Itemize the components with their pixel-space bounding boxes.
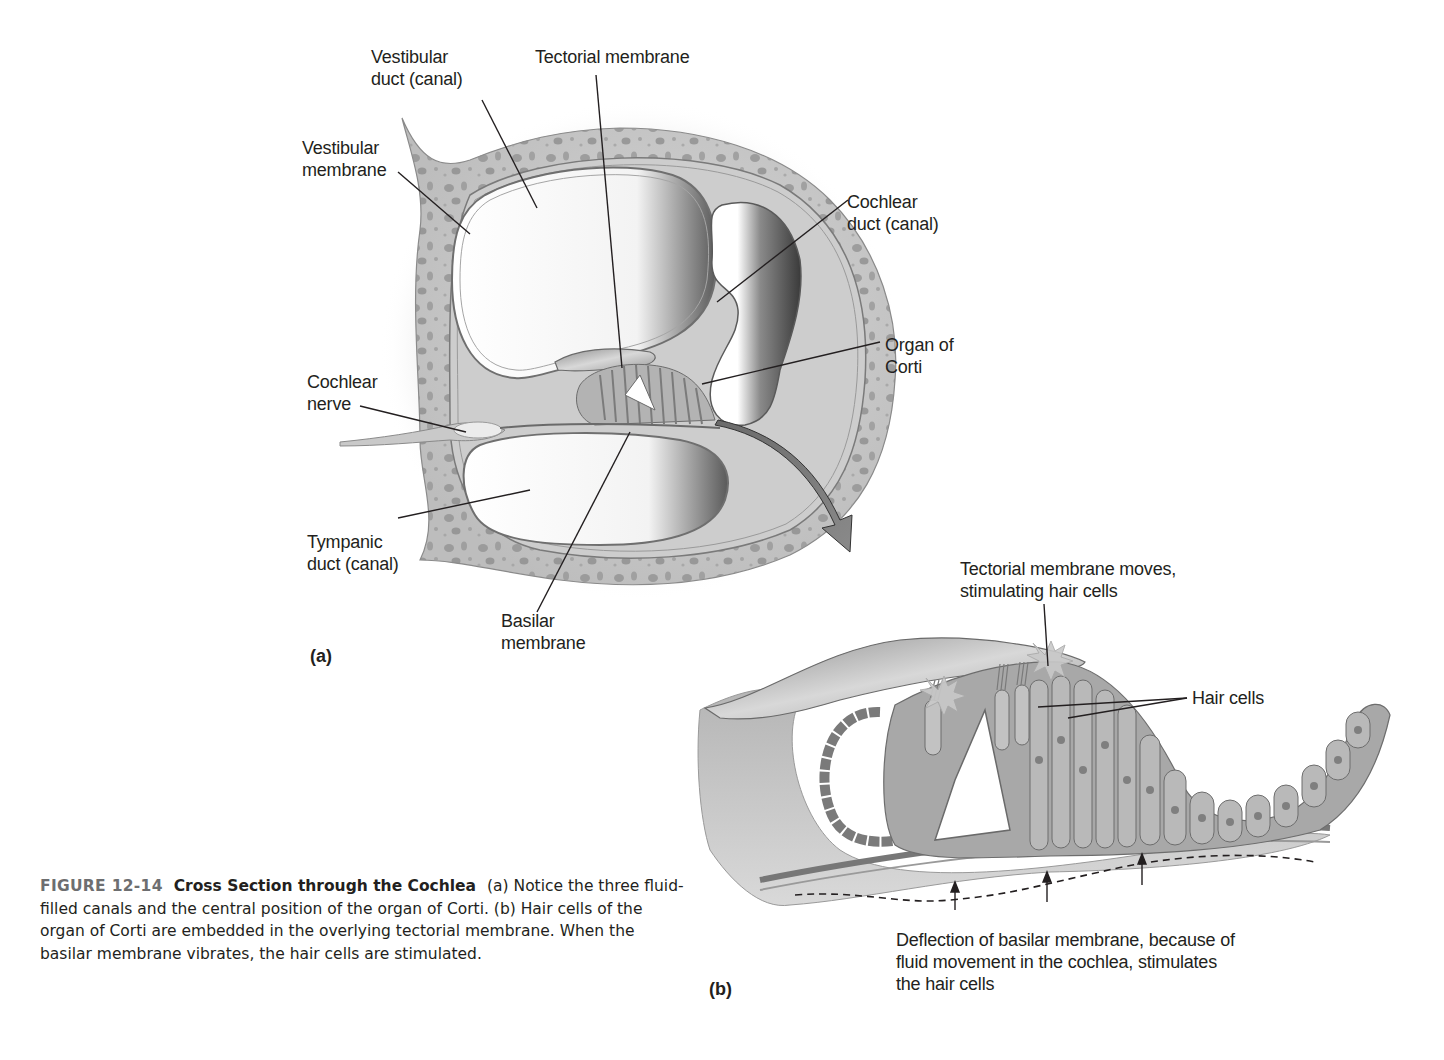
figure-title: Cross Section through the Cochlea [174,877,476,895]
panel-b-letter: (b) [709,979,732,1000]
figure-caption: FIGURE 12-14 Cross Section through the C… [40,875,690,965]
panel-a-cochlea-cross-section [340,75,900,612]
label-vestibular-duct: Vestibular duct (canal) [371,46,463,90]
panel-a-letter: (a) [310,646,332,667]
label-cochlear-duct: Cochlear duct (canal) [847,191,939,235]
label-tympanic-duct: Tympanic duct (canal) [307,531,399,575]
label-tectorial-membrane-moves: Tectorial membrane moves, stimulating ha… [960,558,1176,602]
label-basilar-membrane: Basilar membrane [501,610,585,654]
label-vestibular-membrane: Vestibular membrane [302,137,386,181]
label-hair-cells: Hair cells [1192,687,1264,709]
figure-number: FIGURE 12-14 [40,877,163,895]
panel-b-organ-of-corti-detail [698,604,1390,910]
label-tectorial-membrane: Tectorial membrane [535,46,689,68]
label-cochlear-nerve: Cochlear nerve [307,371,377,415]
label-basilar-deflection: Deflection of basilar membrane, because … [896,929,1235,995]
label-organ-of-corti: Organ of Corti [885,334,953,378]
